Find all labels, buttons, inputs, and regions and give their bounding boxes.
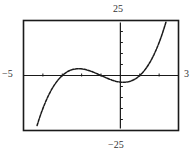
plot-area	[0, 0, 193, 160]
